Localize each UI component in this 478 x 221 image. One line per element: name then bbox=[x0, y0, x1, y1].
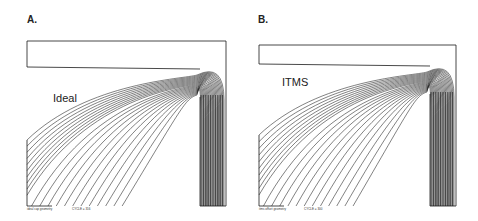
panel-a-label: A. bbox=[27, 14, 37, 25]
panel-b-caption-left: itms offset geometry bbox=[259, 207, 286, 211]
panel-a-caption-right: CYCLE = 316 bbox=[72, 207, 90, 211]
panel-a-caption-left: ideal cap geometry bbox=[27, 207, 52, 211]
panel-b-caption-right: CYCLE = 300 bbox=[304, 207, 322, 211]
panel-b-title: ITMS bbox=[282, 76, 308, 88]
panel-a-title: Ideal bbox=[53, 92, 77, 104]
trajectory-figure bbox=[0, 0, 478, 221]
panel-b-label: B. bbox=[258, 14, 268, 25]
